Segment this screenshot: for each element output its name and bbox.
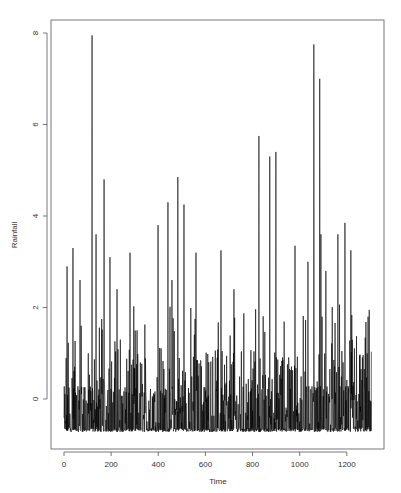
y-tick-label: 6	[31, 122, 40, 127]
y-tick-label: 8	[31, 30, 40, 35]
x-tick-label: 1000	[291, 460, 309, 469]
x-tick-label: 600	[199, 460, 213, 469]
y-tick-label: 2	[31, 305, 40, 310]
x-axis-label: Time	[209, 477, 227, 486]
x-tick-label: 800	[246, 460, 260, 469]
y-tick-label: 4	[31, 213, 40, 218]
rainfall-line	[64, 35, 371, 432]
y-axis: 02468	[31, 30, 47, 401]
x-axis: 020040060080010001200	[62, 452, 357, 469]
y-axis-label: Rainfall	[10, 221, 19, 248]
x-tick-label: 0	[62, 460, 67, 469]
x-tick-label: 400	[152, 460, 166, 469]
x-tick-label: 200	[104, 460, 118, 469]
x-tick-label: 1200	[338, 460, 356, 469]
rainfall-time-series-chart: 020040060080010001200 02468 Time Rainfal…	[0, 0, 401, 493]
series-line	[64, 35, 371, 432]
y-tick-label: 0	[31, 396, 40, 401]
